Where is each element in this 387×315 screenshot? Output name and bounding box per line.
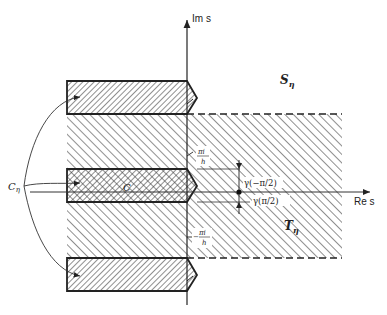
svg-text:h: h xyxy=(201,158,206,166)
svg-text:πi: πi xyxy=(197,148,205,156)
strip-bottom xyxy=(67,258,197,291)
gamma-label-upper: γ(−π/2) xyxy=(243,177,283,188)
svg-text:h: h xyxy=(202,239,207,247)
strip-middle xyxy=(67,169,197,202)
svg-text:γ(π/2): γ(π/2) xyxy=(253,196,279,206)
contour-label: Cη xyxy=(8,181,21,194)
imaginary-axis-label: Im s xyxy=(192,13,211,24)
real-axis-label: Re s xyxy=(354,196,375,207)
svg-text:γ(−π/2): γ(−π/2) xyxy=(244,178,277,188)
strip-label: C xyxy=(123,182,131,193)
region-s-label: Sη xyxy=(280,73,295,89)
strip-top xyxy=(67,81,197,114)
tick-label-lower: − πi h xyxy=(192,228,212,248)
contour-diagram: Im s Re s Sη Tη Cη C πi h − πi h γ(−π/2)… xyxy=(0,0,387,315)
gamma-point xyxy=(236,189,241,194)
gamma-label-lower: γ(π/2) xyxy=(252,195,290,206)
svg-text:πi: πi xyxy=(198,229,206,237)
tick-label-upper: πi h xyxy=(196,146,210,166)
